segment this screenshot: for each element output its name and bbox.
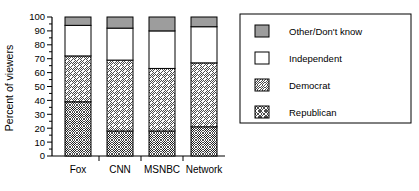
bar-group-msnbc <box>149 17 175 156</box>
bar-segment-fox-democrat <box>65 56 91 102</box>
y-axis-title-text: Percent of viewers <box>3 45 15 131</box>
y-tick-label-30: 30 <box>34 109 45 120</box>
y-tick-label-100: 100 <box>29 11 45 22</box>
bar-segment-cnn-independent <box>107 28 133 60</box>
bar-group-fox <box>65 17 91 156</box>
y-tick-label-70: 70 <box>34 53 45 64</box>
bar-segment-cnn-other <box>107 17 133 28</box>
legend-label-independent: Independent <box>289 53 342 64</box>
x-axis-ticks <box>99 156 183 161</box>
white-solid-swatch <box>255 52 269 64</box>
legend-label-other: Other/Don't know <box>289 26 362 37</box>
y-tick-label-10: 10 <box>34 137 45 148</box>
chart-legend: Other/Don't know Independent Democrat Re… <box>240 14 411 123</box>
bar-segment-cnn-republican <box>107 131 133 156</box>
legend-item-independent[interactable]: Independent <box>255 52 342 64</box>
gray-solid-swatch <box>255 25 269 37</box>
y-axis-title: Percent of viewers <box>3 45 15 131</box>
legend-label-democrat: Democrat <box>289 80 331 91</box>
x-category-label-msnbc: MSNBC <box>144 164 180 175</box>
bar-segment-network-other <box>191 17 217 27</box>
bar-segment-network-republican <box>191 127 217 156</box>
y-tick-label-0: 0 <box>40 150 45 161</box>
stacked-bar-chart: Percent of viewers <box>0 0 419 191</box>
y-tick-label-40: 40 <box>34 95 45 106</box>
y-tick-label-60: 60 <box>34 67 45 78</box>
y-tick-label-50: 50 <box>34 81 45 92</box>
x-category-label-fox: Fox <box>70 164 87 175</box>
bar-segment-msnbc-independent <box>149 31 175 69</box>
legend-label-republican: Republican <box>289 107 337 118</box>
bar-group-network <box>191 17 217 156</box>
y-tick-label-20: 20 <box>34 123 45 134</box>
diagonal-hatch-swatch <box>255 79 269 91</box>
x-category-label-cnn: CNN <box>109 164 131 175</box>
bar-group-cnn <box>107 17 133 156</box>
bar-segment-msnbc-republican <box>149 131 175 156</box>
y-tick-label-80: 80 <box>34 39 45 50</box>
x-axis-category-labels: Fox CNN MSNBC Network <box>70 164 224 175</box>
y-tick-label-90: 90 <box>34 25 45 36</box>
bar-segment-fox-republican <box>65 102 91 156</box>
cross-hatch-swatch <box>255 106 269 118</box>
bar-segment-network-democrat <box>191 63 217 127</box>
legend-item-republican[interactable]: Republican <box>255 106 337 118</box>
y-axis-ticks <box>47 17 52 156</box>
y-axis-tick-labels: 0 10 20 30 40 50 60 70 80 90 100 <box>29 11 45 161</box>
bar-segment-msnbc-other <box>149 17 175 31</box>
bar-segment-cnn-democrat <box>107 60 133 131</box>
bar-segment-fox-other <box>65 17 91 25</box>
chart-figure: Percent of viewers <box>0 0 419 191</box>
bar-segment-msnbc-democrat <box>149 68 175 131</box>
bar-segment-network-independent <box>191 27 217 63</box>
legend-item-democrat[interactable]: Democrat <box>255 79 331 91</box>
bar-segment-fox-independent <box>65 25 91 56</box>
x-category-label-network: Network <box>186 164 224 175</box>
